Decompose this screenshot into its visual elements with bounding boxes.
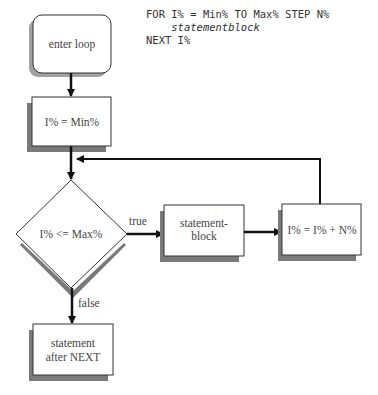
false-label: false [78, 297, 100, 309]
increment-label: I% = I% + N% [287, 224, 357, 236]
init-node: I% = Min% [27, 97, 111, 152]
statement-after-next-node: statement after NEXT [29, 324, 113, 381]
init-label: I% = Min% [45, 116, 100, 128]
enter-loop-node: enter loop [29, 15, 111, 77]
after-label-1: statement [51, 337, 96, 349]
true-label: true [129, 215, 147, 227]
enter-loop-label: enter loop [49, 38, 96, 51]
increment-node: I% = I% + N% [278, 204, 361, 261]
statement-block-node: statement- block [160, 205, 244, 262]
test-node: I% <= Max% [16, 180, 127, 298]
statement-block-label-2: block [191, 230, 217, 242]
after-label-2: after NEXT [46, 351, 101, 363]
statement-block-label-1: statement- [180, 217, 228, 229]
loop-back-arrow [77, 159, 320, 204]
test-label: I% <= Max% [40, 228, 103, 240]
flowchart: enter loop I% = Min% I% <= Max% true sta… [0, 0, 378, 395]
